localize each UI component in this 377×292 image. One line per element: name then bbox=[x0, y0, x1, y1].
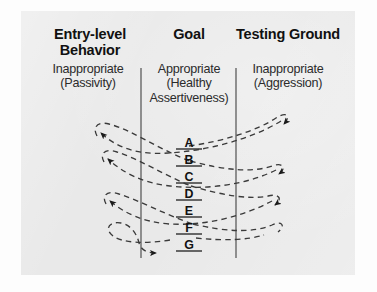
curve-e-to-right bbox=[193, 223, 282, 232]
subtitle-line: Appropriate bbox=[144, 62, 234, 76]
subtitle-line: Assertiveness) bbox=[144, 91, 234, 105]
subtitle-line: (Aggression) bbox=[232, 76, 344, 90]
figure-root: Entry-level Behavior Goal Testing Ground… bbox=[0, 0, 377, 292]
subtitle-line: (Passivity) bbox=[32, 76, 144, 90]
curve-bottom-loop bbox=[108, 223, 170, 253]
subtitle-line: Inappropriate bbox=[232, 62, 344, 76]
subtitle-line: (Healthy bbox=[144, 76, 234, 90]
curve-f-return bbox=[196, 235, 264, 240]
column-subtitle-goal: Appropriate (Healthy Assertiveness) bbox=[144, 62, 234, 105]
column-heading-goal: Goal bbox=[146, 27, 232, 43]
step-letter-c: C bbox=[176, 171, 202, 183]
curve-a-to-right bbox=[189, 115, 287, 146]
column-heading-testing-ground: Testing Ground bbox=[234, 27, 342, 43]
step-letter-d: D bbox=[176, 188, 202, 200]
curve-b-to-right bbox=[190, 161, 283, 174]
column-subtitle-testing-ground: Inappropriate (Aggression) bbox=[232, 62, 344, 91]
step-letter-f: F bbox=[176, 222, 202, 234]
step-letter-b: B bbox=[176, 154, 202, 166]
step-letter-a: A bbox=[176, 137, 202, 149]
column-subtitle-entry-level: Inappropriate (Passivity) bbox=[32, 62, 144, 91]
curve-c-to-right bbox=[191, 186, 279, 205]
step-letter-e: E bbox=[176, 205, 202, 217]
step-letter-g: G bbox=[176, 239, 202, 251]
subtitle-line: Inappropriate bbox=[32, 62, 144, 76]
column-heading-entry-level: Entry-level Behavior bbox=[36, 27, 144, 58]
